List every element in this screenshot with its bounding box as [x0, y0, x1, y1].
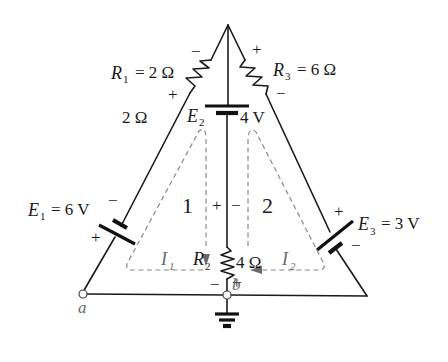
- node-b-label: b: [232, 275, 241, 294]
- current-i2-subscript: 2: [290, 260, 296, 272]
- e1-polarity-plus: +: [91, 228, 101, 247]
- r2-polarity-bottom-minus: −: [210, 275, 220, 294]
- r1-polarity-minus: −: [191, 42, 201, 61]
- node-b: [223, 291, 231, 299]
- r2-value: 4 Ω: [236, 253, 261, 272]
- r3-symbol: R: [272, 60, 284, 80]
- e1-subscript: 1: [40, 210, 46, 222]
- wire-bottom-a-b: [86, 294, 224, 295]
- r2-symbol: R: [192, 249, 204, 269]
- loop-1-number: 1: [182, 193, 193, 218]
- current-i2-symbol: I: [281, 249, 289, 269]
- e3-symbol: E: [357, 214, 369, 234]
- r3-polarity-minus: −: [276, 84, 286, 103]
- battery-e3-plate-short: [329, 243, 342, 253]
- e3-value: = 3 V: [381, 214, 420, 233]
- r3-value: = 6 Ω: [297, 60, 336, 79]
- e3-polarity-plus: +: [334, 202, 344, 221]
- wire-apex-r3: [228, 25, 245, 60]
- r1-value: = 2 Ω: [135, 63, 174, 82]
- e1-symbol: E: [27, 200, 39, 220]
- e2-symbol: E: [186, 106, 198, 126]
- r3-subscript: 3: [285, 70, 291, 82]
- loop-2-number: 2: [262, 193, 273, 218]
- battery-e1-plate-short: [113, 220, 127, 228]
- e2-value: 4 V: [240, 108, 265, 127]
- node-a: [79, 290, 87, 298]
- r2-subscript: 2: [205, 260, 211, 272]
- e2-subscript: 2: [199, 116, 205, 128]
- wire-e3-corner: [336, 249, 367, 296]
- wire-r3-e3: [266, 94, 330, 232]
- r1-polarity-plus: +: [168, 85, 178, 104]
- r3-polarity-plus: +: [252, 40, 262, 59]
- r1-symbol: R: [110, 63, 122, 83]
- node-a-label: a: [78, 298, 87, 317]
- circuit-diagram: R 1 = 2 Ω 2 Ω − + R 3 = 6 Ω + − E 2 4 V …: [0, 0, 448, 362]
- r2-polarity-top-minus: −: [231, 196, 241, 215]
- e1-value: = 6 V: [51, 200, 90, 219]
- r2-polarity-top-plus: +: [212, 196, 222, 215]
- resistor-r1-zigzag: [186, 60, 211, 93]
- wire-bottom-b-corner: [230, 295, 367, 296]
- battery-e1-plate-long: [99, 225, 135, 244]
- r1-subscript: 1: [123, 73, 129, 85]
- wire-apex-r1: [211, 25, 228, 60]
- r1-extra-label: 2 Ω: [122, 108, 147, 127]
- current-i1-symbol: I: [160, 249, 168, 269]
- e3-subscript: 3: [370, 225, 376, 237]
- e1-polarity-minus: −: [108, 191, 118, 210]
- e3-polarity-minus: −: [351, 236, 361, 255]
- battery-e3-plate-long: [317, 221, 353, 250]
- current-i1-subscript: 1: [169, 260, 175, 272]
- resistor-r3-zigzag: [240, 60, 268, 94]
